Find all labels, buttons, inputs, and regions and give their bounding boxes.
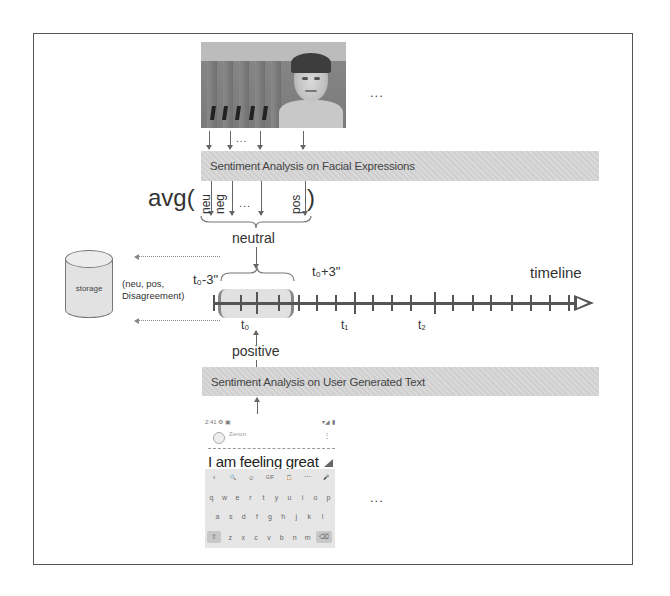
key-b[interactable]: b (278, 534, 286, 541)
key-c[interactable]: c (252, 534, 260, 541)
storage-cylinder: storage (65, 250, 113, 325)
key-p[interactable]: p (325, 494, 333, 501)
text-sentiment-label: Sentiment Analysis on User Generated Tex… (211, 376, 425, 388)
key-h[interactable]: h (279, 513, 287, 520)
send-icon[interactable] (324, 459, 333, 467)
status-left: 2:41 ⚙ ▣ (205, 419, 231, 425)
key-t[interactable]: t (260, 494, 268, 501)
menu-icon[interactable]: ⋮ (323, 431, 331, 440)
key-k[interactable]: k (305, 513, 313, 520)
status-right: ▾◢ ▮ (322, 418, 335, 425)
contact-name: Zenon (229, 431, 246, 437)
key-a[interactable]: a (214, 513, 222, 520)
avg-item-neg: neg (213, 194, 227, 214)
avg-item-ellipsis: ... (239, 197, 251, 209)
key-shift-icon[interactable]: ⇧ (207, 531, 221, 543)
key-m[interactable]: m (304, 534, 312, 541)
video-frame-image (201, 42, 346, 128)
phone-status-bar: 2:41 ⚙ ▣ ▾◢ ▮ (205, 418, 335, 425)
kb-mic-icon[interactable]: 🎤 (322, 474, 330, 480)
header-divider (208, 448, 335, 449)
key-n[interactable]: n (291, 534, 299, 541)
frame-arrow-2 (230, 131, 231, 149)
frame-arrow-1 (209, 131, 210, 149)
timeline-mark-t0: t₀ (241, 318, 249, 332)
timeline-arrowhead-icon (574, 295, 594, 311)
phone-screenshot: 2:41 ⚙ ▣ ▾◢ ▮ Zenon ⋮ I am feeling great… (203, 415, 337, 548)
keyboard-toolbar: ‹ 🔍 ☺ GIF 📋 ⋯ 🎤 (205, 473, 335, 481)
kb-more-icon[interactable]: ⋯ (303, 473, 311, 481)
window-brace-icon (220, 266, 296, 282)
key-u[interactable]: u (286, 494, 294, 501)
facial-sentiment-label: Sentiment Analysis on Facial Expressions (210, 160, 415, 172)
storage-record-label: (neu, pos, Disagreement) (122, 278, 212, 302)
key-l[interactable]: l (318, 513, 326, 520)
timeline-label: timeline (530, 264, 582, 281)
kb-gif-icon[interactable]: GIF (266, 474, 274, 480)
key-v[interactable]: v (265, 534, 273, 541)
avg-close-paren: ) (307, 184, 315, 212)
key-q[interactable]: q (208, 494, 216, 501)
text-result-connector (256, 360, 257, 367)
storage-arrow-top (136, 256, 220, 257)
phone-to-box-arrow (257, 398, 258, 414)
kb-search-icon[interactable]: 🔍 (229, 474, 237, 480)
text-result-label: positive (232, 343, 279, 359)
frame-arrows-ellipsis: ... (236, 133, 247, 144)
face-result-arrow (256, 247, 257, 268)
key-y[interactable]: y (273, 494, 281, 501)
key-z[interactable]: z (226, 534, 234, 541)
message-input[interactable]: I am feeling great (208, 453, 319, 470)
key-f[interactable]: f (253, 513, 261, 520)
key-w[interactable]: w (221, 494, 229, 501)
kb-back-icon[interactable]: ‹ (210, 474, 218, 481)
key-d[interactable]: d (240, 513, 248, 520)
key-g[interactable]: g (266, 513, 274, 520)
timeline-mark-t1: t₁ (341, 318, 348, 332)
face-result-label: neutral (232, 230, 275, 246)
keyboard: ‹ 🔍 ☺ GIF 📋 ⋯ 🎤 q w e r t y u i o p a s … (205, 469, 335, 548)
keyboard-row-3: ⇧ z x c v b n m ⌫ (205, 531, 335, 543)
keyboard-row-2: a s d f g h j k l (205, 513, 335, 520)
kb-emoji-icon[interactable]: ☺ (247, 474, 255, 481)
key-r[interactable]: r (247, 494, 255, 501)
output-arrow-3 (261, 181, 262, 215)
timeline-mark-t2: t₂ (418, 318, 426, 332)
output-arrow-4 (305, 181, 306, 215)
key-backspace-icon[interactable]: ⌫ (316, 531, 332, 543)
key-x[interactable]: x (239, 534, 247, 541)
key-e[interactable]: e (234, 494, 242, 501)
key-j[interactable]: j (292, 513, 300, 520)
frame-arrow-3 (260, 131, 261, 149)
frame-arrow-4 (303, 131, 304, 149)
text-sentiment-box: Sentiment Analysis on User Generated Tex… (202, 367, 599, 396)
key-o[interactable]: o (312, 494, 320, 501)
output-arrow-2 (232, 181, 233, 215)
keyboard-row-1: q w e r t y u i o p (205, 494, 335, 501)
kb-clipboard-icon[interactable]: 📋 (285, 474, 293, 480)
key-s[interactable]: s (227, 513, 235, 520)
contact-avatar (213, 432, 225, 444)
storage-arrow-bottom (136, 320, 220, 321)
more-frames-ellipsis: ... (370, 85, 384, 100)
timeline-axis (213, 302, 583, 305)
facial-sentiment-box: Sentiment Analysis on Facial Expressions (201, 151, 599, 181)
window-end-label: t₀+3" (312, 264, 340, 279)
avg-item-neu: neu (199, 194, 213, 214)
key-i[interactable]: i (299, 494, 307, 501)
avg-function-label: avg( (148, 184, 195, 212)
avg-item-pos: pos (289, 195, 303, 214)
more-messages-ellipsis: ... (370, 490, 384, 505)
avg-brace-icon (200, 215, 312, 229)
storage-label: storage (65, 284, 113, 293)
